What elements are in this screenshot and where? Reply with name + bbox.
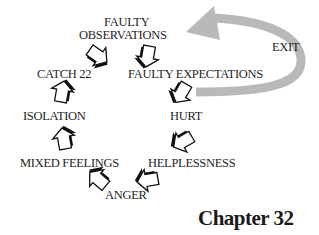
arrow-mixed-to-isolation — [51, 124, 79, 151]
cycle-diagram: FAULTY OBSERVATIONS FAULTY EXPECTATIONS … — [0, 0, 319, 235]
node-hurt: HURT — [170, 110, 202, 123]
chapter-title: Chapter 32 — [198, 206, 294, 231]
node-isolation: ISOLATION — [23, 110, 86, 123]
exit-label: EXIT — [272, 41, 299, 54]
node-faulty-observations-line2: OBSERVATIONS — [79, 29, 167, 42]
node-faulty-expectations: FAULTY EXPECTATIONS — [128, 68, 263, 81]
node-catch-22: CATCH 22 — [37, 68, 91, 81]
node-mixed-feelings: MIXED FEELINGS — [20, 157, 119, 170]
arrow-isolation-to-catch22 — [50, 77, 78, 104]
arrow-expectations-to-hurt — [164, 78, 196, 110]
node-anger: ANGER — [105, 189, 147, 202]
node-helplessness: HELPLESSNESS — [148, 157, 235, 170]
arrow-hurt-to-helplessness — [165, 125, 197, 157]
node-faulty-observations-line1: FAULTY — [104, 16, 149, 29]
